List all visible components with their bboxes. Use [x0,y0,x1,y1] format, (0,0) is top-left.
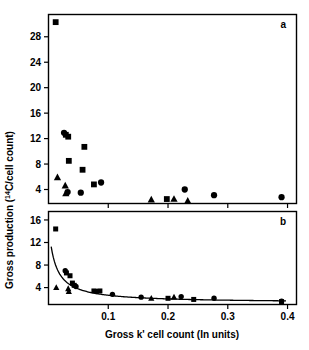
y-axis-title-main: Gross production ( [4,198,15,289]
x-tick-label: 0.3 [221,311,235,322]
data-point-square [68,273,73,278]
svg-text:Gross production (14C/cell cou: Gross production (14C/cell count) [4,131,15,289]
panel-a-frame [49,15,297,204]
data-point-square [91,182,97,188]
data-point-square [81,144,87,150]
panel-a-y-ticks: 481216202428 [30,31,49,195]
data-point-triangle [62,182,69,189]
scatter-figure: Gross production (14C/cell count) a 4812… [0,0,309,350]
data-point-circle [63,268,68,273]
data-point-circle [211,296,216,301]
x-axis-title: Gross k' cell count (In units) [105,329,239,340]
data-point-circle [73,284,78,289]
x-tick-label: 0.1 [101,311,115,322]
panel-b-y-ticks: 481216 [30,215,49,294]
panel-b: b 481216 0.10.20.30.4 [30,212,297,322]
panel-b-data-points [53,226,284,304]
data-point-square [164,196,170,202]
data-point-square [80,167,86,173]
panel-b-frame [49,212,297,305]
data-point-square [166,296,171,301]
data-point-circle [211,192,217,198]
panel-a-data-points [53,19,285,204]
panel-a-label: a [280,19,286,30]
data-point-square [66,158,72,164]
data-point-square [53,226,58,231]
panel-b-x-ticks: 0.10.20.30.4 [101,305,295,322]
y-tick-label: 12 [30,237,42,248]
y-axis-title: Gross production (14C/cell count) [4,131,15,289]
y-tick-label: 24 [30,57,42,68]
data-point-square [191,297,196,302]
panel-a: a 481216202428 [30,15,297,209]
y-tick-label: 12 [30,133,42,144]
y-tick-label: 4 [35,184,41,195]
data-point-circle [138,294,143,299]
y-tick-label: 16 [30,215,42,226]
data-point-circle [182,186,188,192]
y-tick-label: 20 [30,82,42,93]
data-point-triangle [53,284,59,290]
data-point-square [53,19,59,25]
x-tick-label: 0.4 [281,311,295,322]
panel-b-label: b [280,216,286,227]
data-point-circle [78,190,84,196]
data-point-circle [61,130,67,136]
data-point-circle [94,289,99,294]
y-tick-label: 8 [35,159,41,170]
figure-container: Gross production (14C/cell count) a 4812… [0,0,309,350]
y-tick-label: 16 [30,108,42,119]
data-point-circle [279,298,284,303]
y-axis-title-tail: C/cell count) [4,131,15,191]
data-point-triangle [171,294,177,300]
data-point-circle [98,179,104,185]
data-point-triangle [148,196,155,203]
panel-b-fit-curve [51,247,286,301]
data-point-triangle [170,195,177,202]
data-point-circle [278,194,284,200]
y-axis-title-superscript: 14 [4,191,11,199]
y-tick-label: 4 [35,282,41,293]
y-tick-label: 28 [30,31,42,42]
y-tick-label: 8 [35,260,41,271]
data-point-triangle [54,173,61,180]
data-point-circle [178,294,183,299]
data-point-triangle [184,197,191,204]
data-point-circle [110,292,115,297]
x-tick-label: 0.2 [161,311,175,322]
